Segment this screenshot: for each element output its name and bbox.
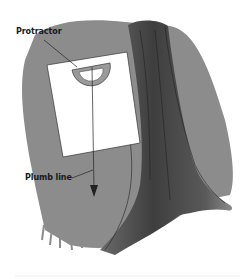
scene-drawing <box>0 0 251 279</box>
illustration: Protractor Plumb line <box>0 0 251 279</box>
plumb-line-label: Plumb line <box>25 173 72 182</box>
protractor-label: Protractor <box>16 27 61 36</box>
